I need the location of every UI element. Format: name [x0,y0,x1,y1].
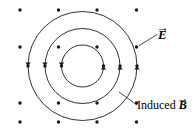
e-vector-symbol: →E [158,28,167,41]
leader-line-induced-b [119,92,137,105]
e-field-dot [95,45,98,48]
e-field-dot [57,101,60,104]
leader-lines [119,35,157,106]
e-field-dot [18,8,21,11]
e-field-dot [43,64,46,67]
e-field-dot [135,120,138,123]
b-vector-symbol: →B [179,99,187,111]
e-field-dot [135,8,138,11]
e-field-dot [102,64,105,67]
e-field-dot-grid [18,8,138,123]
electric-field-label: →E [158,28,167,41]
e-field-dot [18,101,21,104]
e-field-dot [60,64,63,67]
e-field-dot [95,120,98,123]
e-field-dot [118,64,121,67]
induced-magnetic-field-label: Induced →B [137,99,187,111]
b-field-arrowheads [25,63,139,70]
e-field-dot [135,45,138,48]
e-field-dot [26,64,29,67]
e-field-dot [57,45,60,48]
e-field-dot [18,45,21,48]
vector-arrow-icon: → [156,22,168,34]
leader-line-e-field [139,35,158,47]
e-field-dot [57,120,60,123]
induced-text: Induced [137,98,176,112]
e-field-dot [95,8,98,11]
e-field-dot [18,120,21,123]
b-circle-middle [45,29,120,104]
vector-arrow-icon: → [177,93,188,104]
b-circle-inner [62,45,104,87]
e-field-dot [95,101,98,104]
e-field-dot [135,64,138,67]
physics-diagram: →E Induced →B [0,0,195,128]
e-field-dot [57,8,60,11]
